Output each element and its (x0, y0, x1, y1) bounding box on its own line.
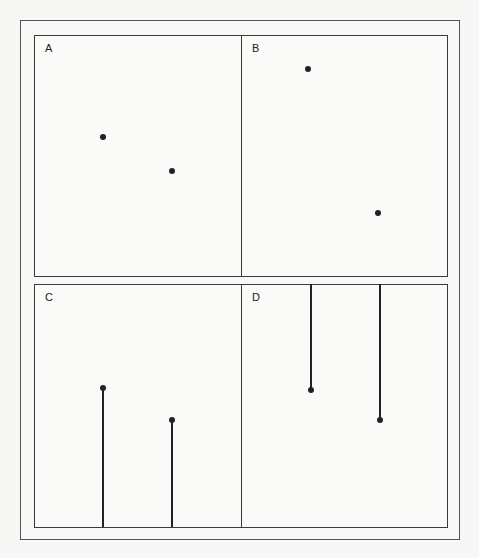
panel-c-dot-1 (100, 385, 106, 391)
panel-a-dot-1 (100, 134, 106, 140)
panel-a-dot-2 (169, 168, 175, 174)
marks-group (100, 66, 383, 527)
panel-b-dot-2 (375, 210, 381, 216)
panel-d-dot-2 (377, 417, 383, 423)
panel-c-dot-2 (169, 417, 175, 423)
panel-d-dot-1 (308, 387, 314, 393)
panel-b-dot-1 (305, 66, 311, 72)
figure-marks (0, 0, 479, 558)
